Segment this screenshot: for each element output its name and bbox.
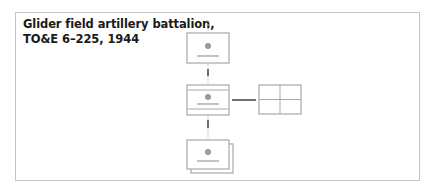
node-parent-unit (187, 33, 229, 63)
node-headquarters (187, 85, 229, 115)
node-attached-grid (259, 85, 301, 114)
unit-dot-icon (205, 43, 211, 49)
unit-dot-icon (205, 149, 211, 155)
org-chart (0, 0, 447, 193)
node-subordinate-stacked (187, 140, 233, 173)
unit-dot-icon (205, 94, 211, 100)
